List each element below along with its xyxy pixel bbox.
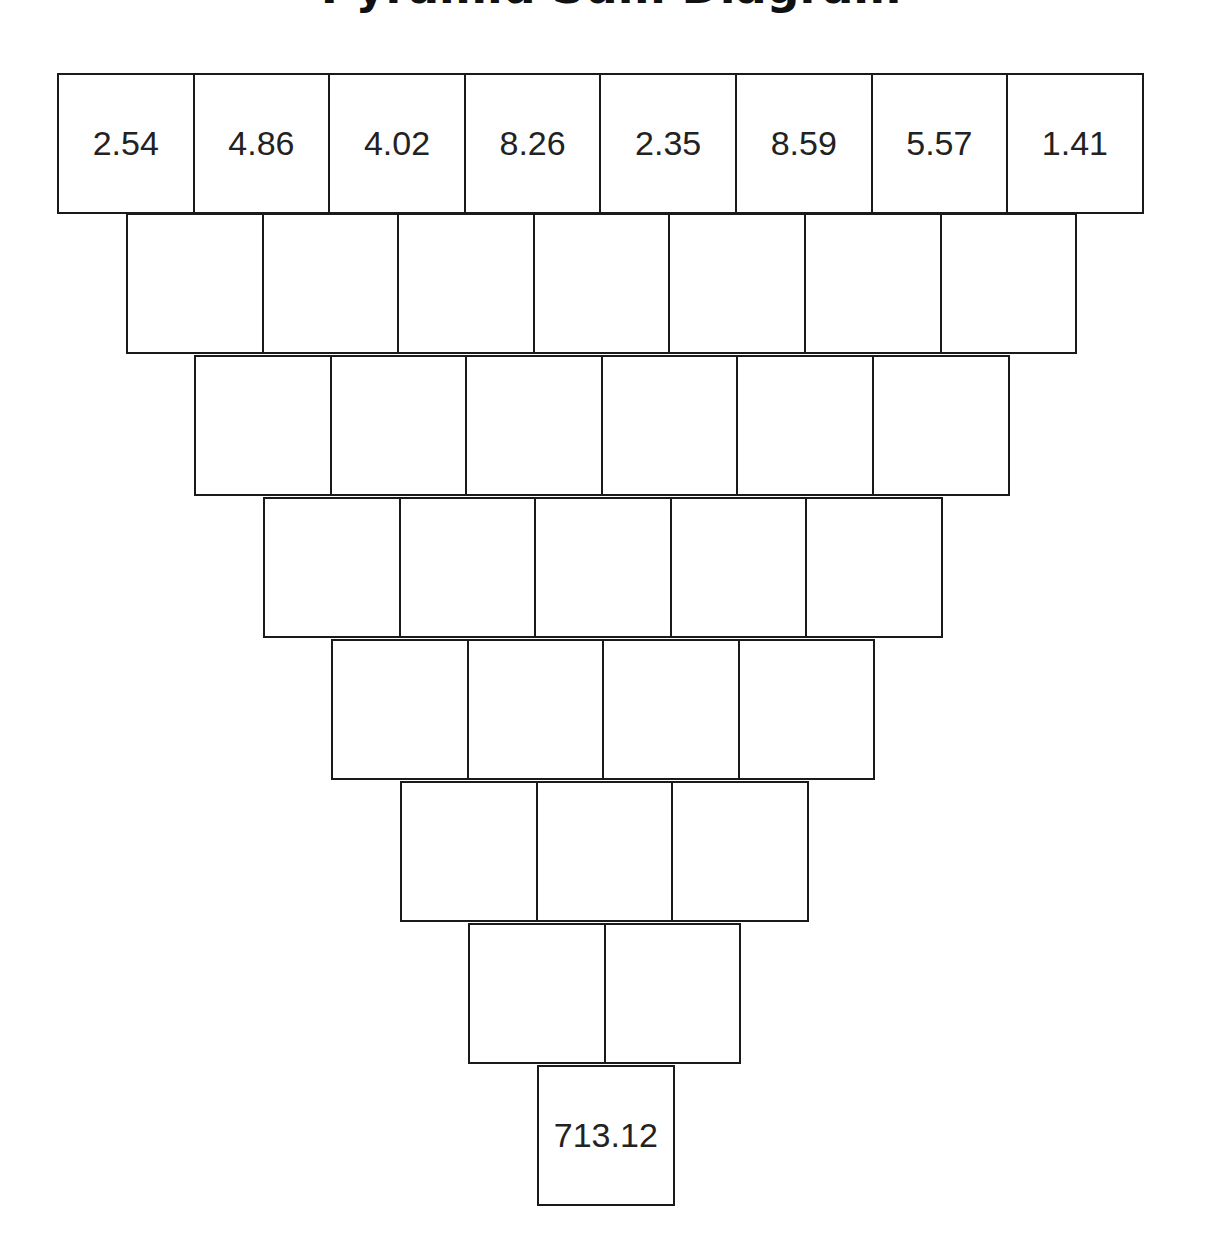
pyramid-row-3: [194, 355, 1010, 496]
pyramid-cell: [533, 213, 671, 354]
pyramid-cell: [126, 213, 264, 354]
pyramid-cell: [331, 639, 469, 780]
pyramid-cell: [536, 781, 674, 922]
pyramid-cell: [534, 497, 672, 638]
pyramid-cell: 5.57: [871, 73, 1009, 214]
pyramid-row-5: [331, 639, 875, 780]
pyramid-cell: [668, 213, 806, 354]
pyramid-cell: [262, 213, 400, 354]
pyramid-row-4: [263, 497, 943, 638]
pyramid-cell: [940, 213, 1078, 354]
pyramid-apex-cell: 713.12: [537, 1065, 675, 1206]
pyramid-cell: [804, 213, 942, 354]
pyramid-cell: [465, 355, 603, 496]
pyramid-row-2: [126, 213, 1077, 354]
pyramid-row-6: [400, 781, 809, 922]
pyramid-cell: 4.86: [193, 73, 331, 214]
pyramid-row-1: 2.54 4.86 4.02 8.26 2.35 8.59 5.57 1.41: [57, 73, 1144, 214]
pyramid-cell: [671, 781, 809, 922]
pyramid-cell: [602, 639, 740, 780]
pyramid-cell: 2.54: [57, 73, 195, 214]
pyramid-cell: [330, 355, 468, 496]
pyramid-cell: [467, 639, 605, 780]
pyramid-cell: [468, 923, 606, 1064]
pyramid-cell: [738, 639, 876, 780]
pyramid-cell: [736, 355, 874, 496]
pyramid-row-8: 713.12: [537, 1065, 675, 1206]
pyramid-cell: 8.26: [464, 73, 602, 214]
pyramid-cell: [263, 497, 401, 638]
pyramid-cell: [805, 497, 943, 638]
pyramid-cell: [601, 355, 739, 496]
number-pyramid: 2.54 4.86 4.02 8.26 2.35 8.59 5.57 1.41: [0, 0, 1222, 1258]
pyramid-cell: [604, 923, 742, 1064]
pyramid-cell: [400, 781, 538, 922]
pyramid-cell: [397, 213, 535, 354]
pyramid-cell: [399, 497, 537, 638]
pyramid-cell: [194, 355, 332, 496]
pyramid-cell: [872, 355, 1010, 496]
pyramid-cell: 1.41: [1006, 73, 1144, 214]
pyramid-cell: 8.59: [735, 73, 873, 214]
pyramid-row-7: [468, 923, 741, 1064]
pyramid-cell: 4.02: [328, 73, 466, 214]
pyramid-cell: 2.35: [599, 73, 737, 214]
pyramid-cell: [670, 497, 808, 638]
